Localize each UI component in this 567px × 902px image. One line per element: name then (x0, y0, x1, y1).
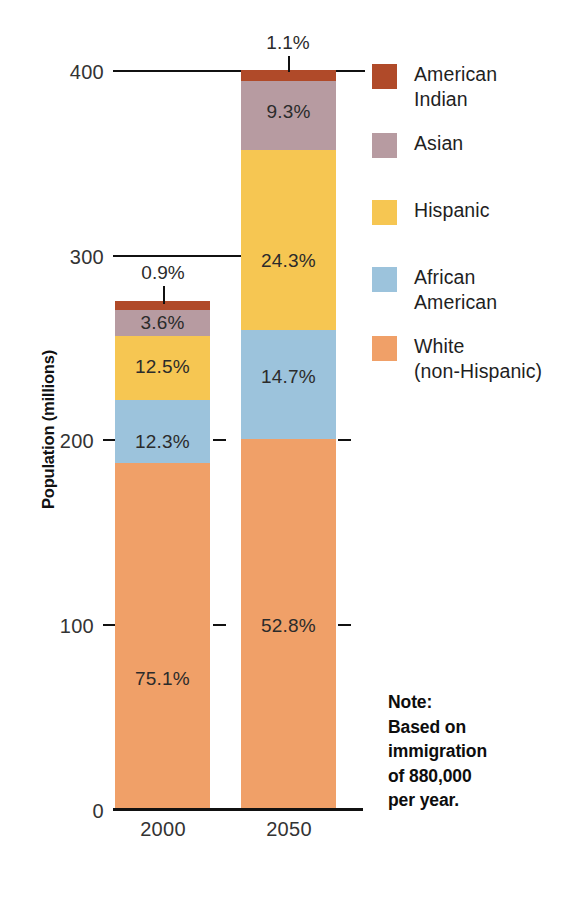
segment-2000-asian-label: 3.6% (115, 312, 210, 334)
segment-2000-white[interactable]: 75.1% (115, 463, 210, 809)
legend-label-hispanic: Hispanic (414, 198, 490, 223)
segment-2050-african-american[interactable]: 14.7% (241, 330, 336, 439)
segment-2050-african-american-label: 14.7% (241, 366, 336, 388)
y-tick-label-300: 300 (70, 245, 104, 268)
segment-2000-white-label: 75.1% (115, 668, 210, 690)
legend-label-asian: Asian (414, 131, 463, 156)
legend-swatch-asian-icon (372, 133, 397, 158)
legend-label-american-indian: American Indian (414, 62, 497, 112)
x-axis-label-2050: 2050 (224, 818, 354, 841)
segment-2000-hispanic-label: 12.5% (115, 356, 210, 378)
callout-2050-leader-line (288, 56, 290, 72)
segment-2050-hispanic[interactable]: 24.3% (241, 150, 336, 330)
y-tick-label-200: 200 (60, 430, 94, 453)
segment-2050-white-label: 52.8% (241, 615, 336, 637)
bar-2000[interactable]: 3.6% 12.5% 12.3% 75.1% (115, 301, 210, 809)
legend-item-african-american[interactable]: African American (372, 265, 562, 315)
legend-item-hispanic[interactable]: Hispanic (372, 198, 562, 225)
legend-swatch-white-icon (372, 336, 397, 361)
legend: American Indian Asian Hispanic African A… (372, 62, 562, 384)
y-tick-label-400: 400 (70, 61, 104, 84)
segment-2000-african-american-label: 12.3% (115, 431, 210, 453)
plot-area: 400 300 200 100 0 3.6% 12.5 (113, 70, 363, 845)
legend-item-asian[interactable]: Asian (372, 131, 562, 158)
segment-2050-white[interactable]: 52.8% (241, 439, 336, 808)
legend-item-american-indian[interactable]: American Indian (372, 62, 562, 112)
segment-2050-asian[interactable]: 9.3% (241, 81, 336, 150)
segment-2050-hispanic-label: 24.3% (241, 250, 336, 272)
segment-2000-african-american[interactable]: 12.3% (115, 400, 210, 463)
legend-label-african-american: African American (414, 265, 497, 315)
y-tick-200-mid (213, 439, 226, 441)
chart-note: Note: Based on immigration of 880,000 pe… (388, 690, 563, 813)
legend-swatch-hispanic-icon (372, 200, 397, 225)
x-axis-baseline: 0 (113, 808, 363, 811)
callout-2000-american-indian-label: 0.9% (103, 262, 223, 284)
gridline-300: 300 (113, 255, 245, 257)
stacked-bar-chart-figure: Population (millions) 400 300 200 100 0 (0, 0, 567, 902)
y-tick-100-mid (213, 624, 226, 626)
legend-label-white: White (non-Hispanic) (414, 334, 542, 384)
segment-2050-asian-label: 9.3% (241, 101, 336, 123)
y-axis-title: Population (millions) (39, 320, 58, 540)
y-tick-100-right (338, 624, 351, 626)
segment-2000-hispanic[interactable]: 12.5% (115, 336, 210, 400)
callout-2000-leader-line (163, 286, 165, 304)
callout-2050-american-indian-label: 1.1% (228, 32, 348, 54)
y-tick-200-right (338, 439, 351, 441)
bar-2050[interactable]: 9.3% 24.3% 14.7% 52.8% (241, 70, 336, 808)
y-tick-label-100: 100 (60, 614, 94, 637)
legend-item-white[interactable]: White (non-Hispanic) (372, 334, 562, 384)
segment-2000-asian[interactable]: 3.6% (115, 310, 210, 336)
legend-swatch-african-american-icon (372, 267, 397, 292)
x-axis-label-2000: 2000 (98, 818, 228, 841)
legend-swatch-american-indian-icon (372, 64, 397, 89)
